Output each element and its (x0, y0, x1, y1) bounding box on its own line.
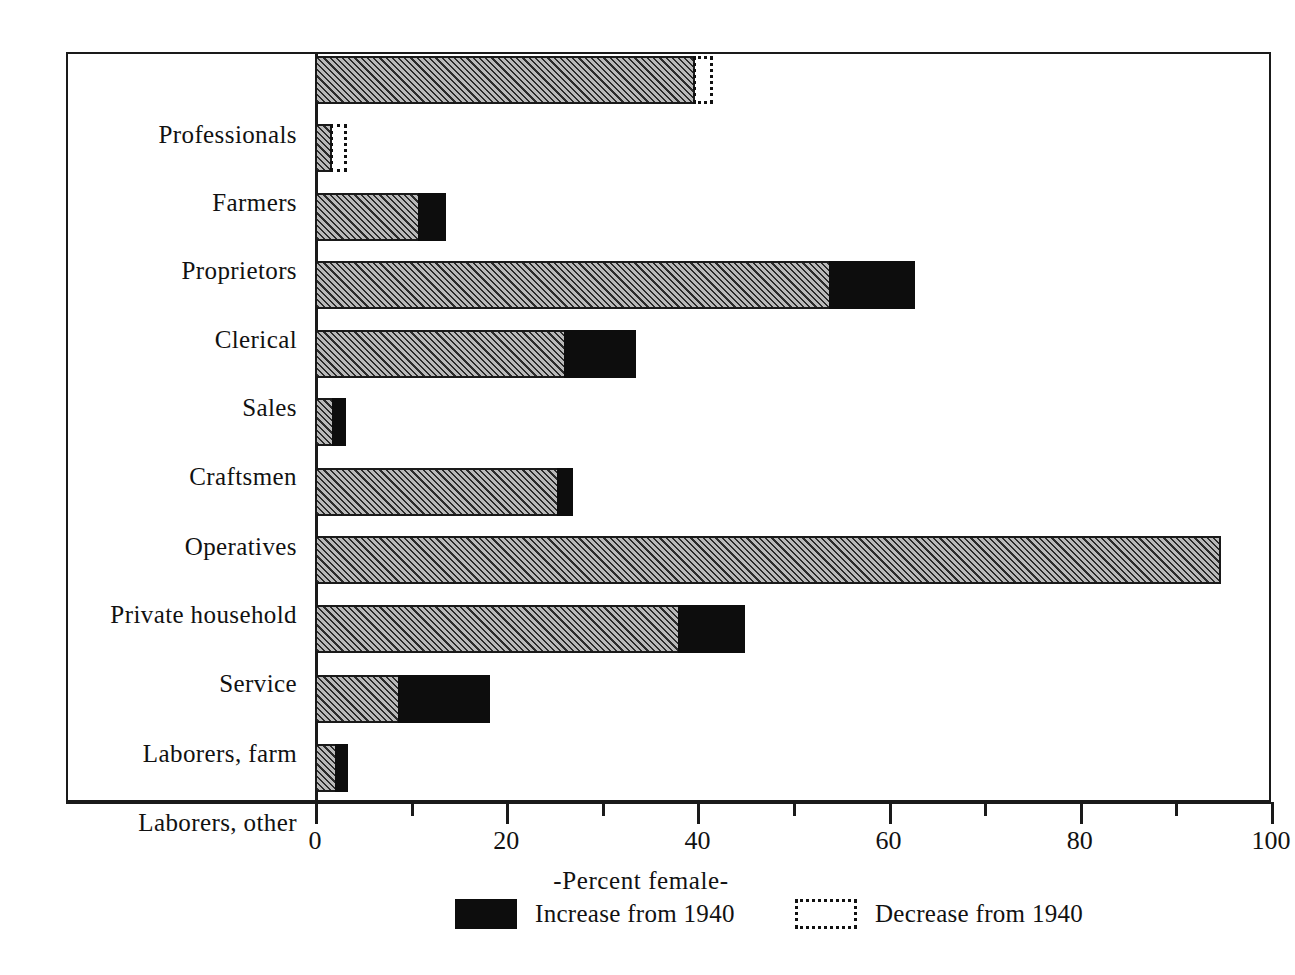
bar-segment-increase (418, 193, 446, 241)
bar-segment-increase (829, 261, 915, 309)
x-tick-label: 60 (849, 826, 929, 856)
bar-row (315, 468, 573, 516)
x-tick-label: 20 (466, 826, 546, 856)
bar-segment-base (315, 605, 680, 653)
bar-segment-base (315, 193, 420, 241)
legend-swatch-decrease-icon (795, 899, 857, 929)
x-tick-minor (411, 802, 414, 816)
bar-segment-decrease (693, 56, 712, 104)
bar-row (315, 330, 636, 378)
x-tick-major (315, 802, 318, 824)
bar-row (315, 124, 345, 172)
bar-row (315, 193, 446, 241)
legend-label-increase: Increase from 1940 (535, 900, 735, 928)
x-tick-major (889, 802, 892, 824)
bar-segment-base (315, 56, 695, 104)
bar-row (315, 605, 745, 653)
bar-row (315, 398, 346, 446)
bar-segment-increase (564, 330, 636, 378)
legend-label-decrease: Decrease from 1940 (875, 900, 1083, 928)
bar-segment-increase (332, 398, 345, 446)
bar-segment-decrease (330, 124, 346, 172)
x-tick-label: 0 (275, 826, 355, 856)
legend-swatch-increase-icon (455, 899, 517, 929)
chart-legend: Increase from 1940 Decrease from 1940 (0, 892, 1282, 940)
legend-item-decrease: Decrease from 1940 (795, 892, 1083, 936)
bar-row (315, 56, 711, 104)
bar-segment-base (315, 744, 337, 792)
x-tick-minor (1175, 802, 1178, 816)
bar-segment-increase (678, 605, 745, 653)
x-tick-minor (602, 802, 605, 816)
bar-segment-increase (335, 744, 348, 792)
bar-segment-increase (557, 468, 573, 516)
bar-segment-base (315, 330, 566, 378)
legend-item-increase: Increase from 1940 (455, 892, 735, 936)
x-tick-major (1271, 802, 1274, 824)
x-tick-major (1080, 802, 1083, 824)
bar-segment-base (315, 536, 1221, 584)
bar-row (315, 261, 915, 309)
bar-segment-base (315, 675, 400, 723)
x-tick-label: 80 (1040, 826, 1120, 856)
bar-segment-increase (398, 675, 490, 723)
x-axis-title: -Percent female- (0, 867, 1282, 895)
x-tick-major (506, 802, 509, 824)
bar-row (315, 536, 1221, 584)
bar-segment-base (315, 468, 559, 516)
x-axis-line (66, 801, 1271, 804)
x-tick-minor (984, 802, 987, 816)
x-tick-label: 40 (657, 826, 737, 856)
bar-row (315, 744, 348, 792)
bar-row (315, 675, 490, 723)
x-tick-minor (793, 802, 796, 816)
x-tick-label: 100 (1231, 826, 1295, 856)
bar-segment-base (315, 261, 831, 309)
x-tick-major (697, 802, 700, 824)
